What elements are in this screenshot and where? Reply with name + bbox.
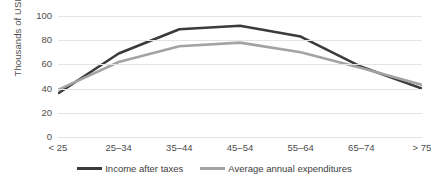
y-axis-tick-label: 80 bbox=[26, 35, 52, 45]
legend-swatch-icon bbox=[200, 167, 225, 170]
x-axis-tick-label: 65–74 bbox=[348, 142, 374, 153]
gridline bbox=[58, 16, 422, 17]
x-axis-tick-labels: < 2525–3435–4445–5455–6465–74> 75 bbox=[58, 142, 422, 156]
x-axis-tick-label: < 25 bbox=[49, 142, 68, 153]
series-line bbox=[58, 43, 422, 90]
legend-label: Average annual expenditures bbox=[228, 163, 351, 174]
gridline bbox=[58, 64, 422, 65]
x-axis-tick-label: 45–54 bbox=[227, 142, 253, 153]
series-line bbox=[58, 26, 422, 94]
x-axis-tick-label: 35–44 bbox=[166, 142, 192, 153]
y-axis-tick-label: 40 bbox=[26, 84, 52, 94]
x-axis-tick-label: 55–64 bbox=[287, 142, 313, 153]
y-axis-tick-label: 0 bbox=[26, 132, 52, 142]
legend-item[interactable]: Income after taxes bbox=[77, 163, 183, 174]
series-lines bbox=[58, 16, 422, 137]
gridline bbox=[58, 40, 422, 41]
y-axis-tick-label: 20 bbox=[26, 108, 52, 118]
legend-swatch-icon bbox=[77, 167, 102, 170]
legend-item[interactable]: Average annual expenditures bbox=[200, 163, 351, 174]
y-axis-title: Thousands of USD bbox=[12, 0, 23, 99]
y-axis-tick-label: 60 bbox=[26, 59, 52, 69]
chart-legend: Income after taxesAverage annual expendi… bbox=[0, 163, 429, 174]
gridline bbox=[58, 137, 422, 138]
y-axis-tick-labels: 020406080100 bbox=[24, 16, 52, 137]
x-axis-tick-label: > 75 bbox=[413, 142, 431, 153]
x-axis-tick-label: 25–34 bbox=[105, 142, 131, 153]
y-axis-tick-label: 100 bbox=[26, 11, 52, 21]
gridline bbox=[58, 113, 422, 114]
plot-area bbox=[58, 16, 422, 137]
gridline bbox=[58, 89, 422, 90]
legend-label: Income after taxes bbox=[105, 163, 183, 174]
